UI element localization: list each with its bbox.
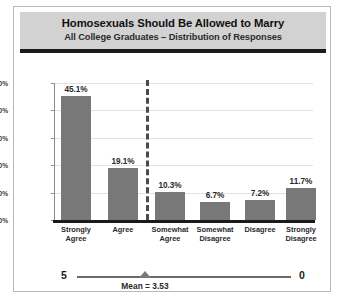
- y-tick-mark-30: [51, 138, 55, 139]
- y-tick-mark-50: [51, 83, 55, 84]
- mean-scale: 5 0 Mean = 3.53: [55, 269, 313, 299]
- category-line-2: Agree: [66, 234, 87, 243]
- gridline-20: [55, 165, 313, 166]
- scale-line: [77, 276, 291, 278]
- category-line-1: Somewhat: [197, 225, 234, 234]
- gridline-50: [55, 83, 313, 84]
- bar-somewhat-disagree: [200, 202, 230, 220]
- y-tick-label-30: 30%: [0, 135, 8, 142]
- bar-somewhat-agree: [155, 192, 185, 220]
- category-label-strongly-agree: Strongly Agree: [49, 225, 103, 243]
- bar-value-label-strongly-agree: 45.1%: [52, 85, 100, 94]
- bar-value-label-somewhat-agree: 10.3%: [146, 181, 194, 190]
- bar-disagree: [245, 200, 275, 220]
- y-axis-line: [54, 83, 55, 220]
- bar-value-label-somewhat-disagree: 6.7%: [191, 191, 239, 200]
- bar-strongly-disagree: [286, 188, 316, 220]
- bar-value-label-strongly-disagree: 11.7%: [277, 177, 325, 186]
- bar-strongly-agree: [61, 96, 91, 220]
- plot-area: 50% 40% 30% 20% 10% 0% 45.1% 19.1% 10.3%…: [55, 83, 313, 220]
- category-label-agree: Agree: [96, 225, 150, 234]
- chart-figure: Homosexuals Should Be Allowed to Marry A…: [13, 6, 331, 292]
- y-tick-label-20: 20%: [0, 162, 8, 169]
- category-label-strongly-disagree: Strongly Disagree: [274, 225, 328, 243]
- category-line-1: Agree: [113, 225, 134, 234]
- mean-marker-triangle-icon: [139, 271, 151, 278]
- gridline-40: [55, 110, 313, 111]
- bar-value-label-disagree: 7.2%: [236, 189, 284, 198]
- agree-disagree-divider: [146, 80, 152, 220]
- category-line-1: Somewhat: [152, 225, 189, 234]
- category-line-2: Disagree: [199, 234, 230, 243]
- bar-agree: [108, 168, 138, 220]
- gridline-30: [55, 138, 313, 139]
- y-tick-label-40: 40%: [0, 107, 8, 114]
- category-line-1: Strongly: [61, 225, 91, 234]
- chart-subtitle: All College Graduates – Distribution of …: [20, 30, 326, 43]
- y-tick-label-0: 0%: [0, 217, 8, 224]
- bar-value-label-agree: 19.1%: [99, 157, 147, 166]
- y-tick-mark-20: [51, 165, 55, 166]
- y-tick-mark-10: [51, 193, 55, 194]
- category-line-2: Disagree: [285, 234, 316, 243]
- chart-header: Homosexuals Should Be Allowed to Marry A…: [20, 12, 326, 53]
- mean-value-label: Mean = 3.53: [93, 281, 197, 291]
- y-tick-label-50: 50%: [0, 80, 8, 87]
- category-line-2: Agree: [160, 234, 181, 243]
- y-tick-label-10: 10%: [0, 190, 8, 197]
- scale-left-endpoint-label: 5: [55, 269, 73, 281]
- category-line-1: Disagree: [244, 225, 275, 234]
- x-axis-baseline: [53, 220, 315, 223]
- category-line-1: Strongly: [286, 225, 316, 234]
- y-tick-mark-40: [51, 110, 55, 111]
- chart-title: Homosexuals Should Be Allowed to Marry: [20, 12, 326, 30]
- scale-right-endpoint-label: 0: [293, 269, 311, 281]
